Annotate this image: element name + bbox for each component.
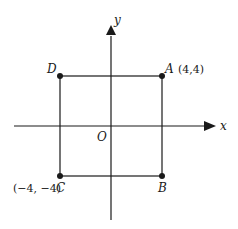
x-axis-arrow-icon — [204, 121, 216, 131]
point-c — [57, 173, 63, 179]
point-a-coord: (4,4) — [178, 63, 204, 76]
y-axis-label: y — [113, 13, 121, 27]
point-d — [57, 73, 63, 79]
x-axis-label: x — [220, 119, 227, 133]
point-c-label: C — [56, 181, 65, 195]
point-b-label: B — [157, 181, 167, 195]
point-c-coord: (−4, −4) — [13, 182, 61, 195]
point-d-label: D — [46, 62, 57, 76]
coordinate-diagram: y x O A (4,4) B (−4, −4) C D — [0, 0, 238, 229]
point-a-label: A — [164, 62, 174, 76]
point-b — [159, 173, 165, 179]
origin-label: O — [97, 130, 107, 144]
